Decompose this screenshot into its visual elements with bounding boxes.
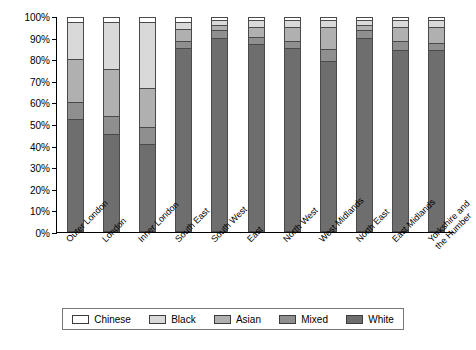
bar-segment-mixed <box>393 41 408 50</box>
bar-column[interactable] <box>392 17 409 232</box>
bar-segment-white <box>68 119 83 231</box>
legend-label: Mixed <box>301 314 328 325</box>
bar-segment-black <box>68 22 83 59</box>
bar-segment-black <box>176 22 191 29</box>
bar-segment-asian <box>429 27 444 43</box>
bar-segment-asian <box>393 27 408 41</box>
legend-label: Black <box>171 314 195 325</box>
legend-swatch-asian <box>214 315 231 324</box>
bar-segment-mixed <box>212 30 227 37</box>
bar-segment-asian <box>104 69 119 116</box>
legend-item[interactable]: Black <box>149 314 195 325</box>
bar-segment-mixed <box>176 41 191 48</box>
bar-segment-white <box>393 50 408 231</box>
legend-label: Chinese <box>94 314 131 325</box>
bar-segment-mixed <box>249 37 264 44</box>
bar-segment-white <box>249 44 264 231</box>
legend-label: White <box>368 314 394 325</box>
legend-swatch-white <box>346 315 363 324</box>
plot-area: 100%90%80%70%60%50%40%30%20%10%0% <box>56 17 454 233</box>
bar-segment-mixed <box>285 41 300 48</box>
bar-segment-asian <box>321 27 336 49</box>
y-axis-tick-mark <box>52 233 57 234</box>
bar-segment-white <box>285 48 300 231</box>
bar-segment-mixed <box>321 49 336 60</box>
bar-segment-mixed <box>429 43 444 50</box>
bar-segment-asian <box>249 27 264 36</box>
bar-column[interactable] <box>67 17 84 232</box>
bar-segment-black <box>429 20 444 27</box>
bar-segment-black <box>140 22 155 88</box>
bars-layer <box>57 17 454 232</box>
legend-item[interactable]: Chinese <box>72 314 131 325</box>
legend-swatch-mixed <box>279 315 296 324</box>
bar-segment-black <box>393 20 408 27</box>
bar-segment-white <box>321 61 336 231</box>
bar-column[interactable] <box>211 17 228 232</box>
bar-segment-asian <box>68 59 83 102</box>
bar-segment-white <box>140 144 155 231</box>
legend-swatch-black <box>149 315 166 324</box>
legend-swatch-chinese <box>72 315 89 324</box>
bar-segment-mixed <box>104 116 119 134</box>
bar-segment-mixed <box>68 102 83 120</box>
bar-segment-white <box>104 134 119 231</box>
bar-segment-asian <box>285 27 300 41</box>
bar-column[interactable] <box>139 17 156 232</box>
legend-item[interactable]: White <box>346 314 394 325</box>
bar-segment-mixed <box>140 127 155 145</box>
legend-label: Asian <box>236 314 261 325</box>
bar-segment-white <box>212 38 227 231</box>
bar-column[interactable] <box>320 17 337 232</box>
bar-segment-black <box>285 20 300 27</box>
legend-item[interactable]: Asian <box>214 314 261 325</box>
bar-segment-asian <box>176 29 191 40</box>
bar-segment-black <box>104 22 119 69</box>
chart-legend: ChineseBlackAsianMixedWhite <box>62 308 404 330</box>
legend-item[interactable]: Mixed <box>279 314 328 325</box>
bar-segment-mixed <box>357 30 372 37</box>
bar-column[interactable] <box>248 17 265 232</box>
bar-column[interactable] <box>175 17 192 232</box>
bar-column[interactable] <box>284 17 301 232</box>
bar-segment-black <box>249 20 264 27</box>
bar-segment-asian <box>140 88 155 127</box>
bar-segment-black <box>321 20 336 27</box>
